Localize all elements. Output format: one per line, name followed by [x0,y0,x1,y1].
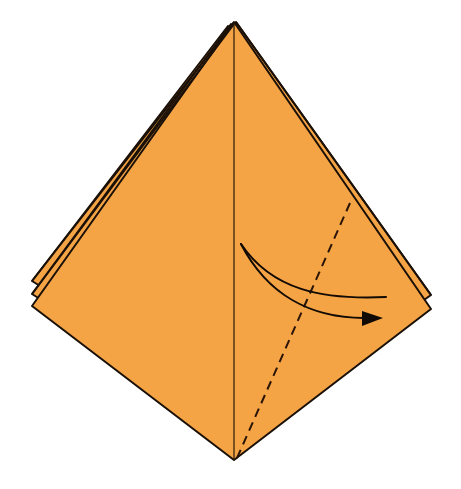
paper-front-kite [32,22,431,460]
origami-diagram [0,0,461,489]
